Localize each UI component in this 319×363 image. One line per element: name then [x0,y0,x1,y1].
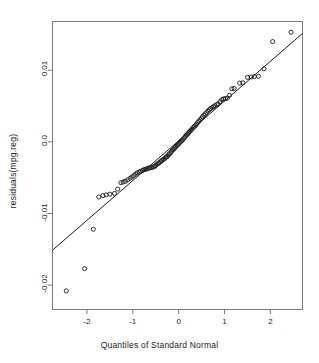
x-tick-label: 0 [176,317,180,326]
y-tick-label: 0.01 [39,54,48,84]
y-tick-label: -0.01 [39,197,48,227]
x-tick-label: 2 [268,317,272,326]
y-axis-title: residuals(mpg.reg) [8,111,18,231]
x-axis-title: Quantiles of Standard Normal [0,340,319,350]
qq-plot-figure: -2-10120.010.0-0.01-0.02 Quantiles of St… [0,0,319,363]
y-tick-label: 0.0 [39,125,48,155]
x-tick-label: -1 [129,317,136,326]
axis-ticks [48,70,270,314]
x-tick-label: -2 [83,317,90,326]
data-points [64,30,293,293]
y-tick-label: -0.02 [39,269,48,299]
plot-frame [53,22,303,310]
x-tick-label: 1 [222,317,226,326]
